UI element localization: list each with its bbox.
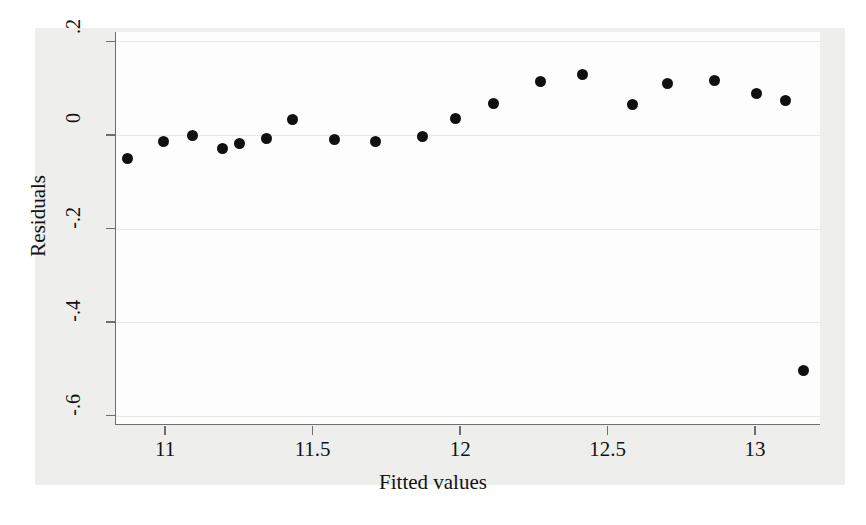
y-tick-label-2: -.2: [62, 207, 102, 229]
data-point: [709, 75, 720, 86]
x-tick-mark-2: [459, 426, 461, 435]
y-tick-mark-2: [106, 228, 115, 230]
y-axis-title: Residuals: [26, 175, 51, 257]
y-tick-label-0: .2: [62, 19, 102, 34]
data-point: [577, 69, 588, 80]
gridline-y-4: [116, 416, 820, 417]
data-point: [122, 153, 133, 164]
x-tick-mark-3: [607, 426, 609, 435]
y-tick-label-3: -.4: [62, 300, 102, 322]
data-point: [662, 78, 673, 89]
data-point: [488, 98, 499, 109]
data-point: [370, 136, 381, 147]
data-point: [261, 133, 272, 144]
data-point: [751, 88, 762, 99]
x-tick-label-0: 11: [125, 437, 205, 462]
data-point: [217, 143, 228, 154]
gridline-y-1: [116, 135, 820, 136]
y-tick-mark-1: [106, 134, 115, 136]
data-point: [187, 130, 198, 141]
data-point: [780, 95, 791, 106]
y-tick-mark-3: [106, 321, 115, 323]
x-tick-label-2: 12: [420, 437, 500, 462]
x-tick-mark-1: [312, 426, 314, 435]
data-point: [450, 113, 461, 124]
x-tick-mark-0: [164, 426, 166, 435]
x-tick-label-3: 12.5: [568, 437, 648, 462]
x-tick-label-4: 13: [715, 437, 795, 462]
plot-data-area: [116, 32, 820, 424]
y-tick-label-4: -.6: [62, 394, 102, 416]
data-point: [798, 365, 809, 376]
x-tick-mark-4: [754, 426, 756, 435]
data-point: [329, 134, 340, 145]
data-point: [158, 136, 169, 147]
data-point: [627, 99, 638, 110]
scatter-plot-figure: .20-.2-.4-.6 1111.51212.513 Residuals Fi…: [0, 0, 866, 525]
data-point: [535, 76, 546, 87]
y-tick-label-1: 0: [62, 113, 102, 123]
data-point: [234, 138, 245, 149]
gridline-y-2: [116, 229, 820, 230]
y-tick-mark-4: [106, 415, 115, 417]
gridline-y-3: [116, 322, 820, 323]
y-tick-mark-0: [106, 41, 115, 43]
x-tick-label-1: 11.5: [273, 437, 353, 462]
data-point: [287, 114, 298, 125]
plot-region: [115, 32, 820, 425]
gridline-y-0: [116, 41, 820, 42]
data-point: [417, 131, 428, 142]
x-axis-title: Fitted values: [0, 470, 866, 495]
